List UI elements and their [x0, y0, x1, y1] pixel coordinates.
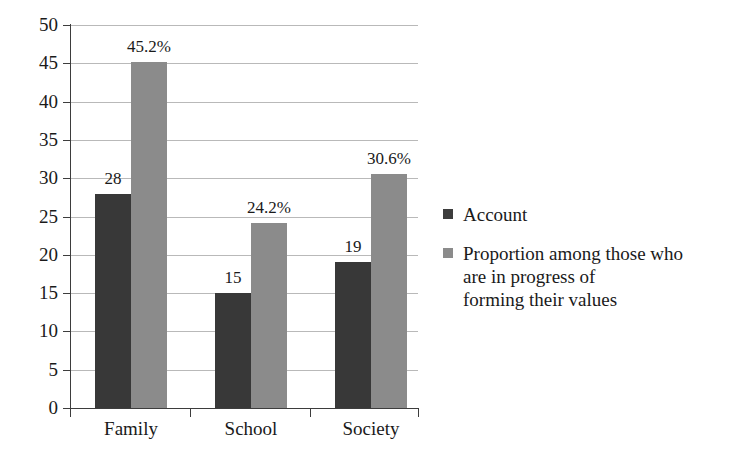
y-axis-tick-label: 30 — [14, 168, 58, 187]
y-axis-tick-label: 50 — [14, 15, 58, 34]
legend-item-account[interactable]: Account — [443, 203, 733, 226]
x-axis-tick — [70, 409, 71, 417]
legend-item-proportion[interactable]: Proportion among those whoare in progres… — [443, 242, 733, 311]
bar — [251, 223, 287, 408]
y-axis-tick — [63, 178, 70, 179]
y-axis-tick-label-wrap: 40 — [0, 92, 58, 111]
legend-label-proportion: Proportion among those whoare in progres… — [463, 242, 683, 311]
y-axis-tick-label: 10 — [14, 321, 58, 340]
y-axis-tick-label: 40 — [14, 92, 58, 111]
x-axis-category-label: Family — [71, 418, 191, 440]
y-axis-tick-label: 20 — [14, 245, 58, 264]
x-axis-line — [70, 408, 419, 409]
bar — [131, 62, 167, 408]
legend-label-account: Account — [463, 203, 527, 226]
bar — [371, 174, 407, 408]
y-axis-tick-label-wrap: 50 — [0, 15, 58, 34]
y-axis-tick — [63, 331, 70, 332]
gridline — [70, 63, 418, 64]
bar — [335, 262, 371, 408]
y-axis-tick — [63, 408, 70, 409]
y-axis-tick-label: 45 — [14, 53, 58, 72]
bar — [95, 194, 131, 408]
y-axis-tick-label: 35 — [14, 130, 58, 149]
y-axis-tick-label-wrap: 30 — [0, 168, 58, 187]
y-axis-tick-label-wrap: 0 — [0, 398, 58, 417]
y-axis-tick-label-wrap: 10 — [0, 321, 58, 340]
y-axis-tick-label: 5 — [14, 360, 58, 379]
y-axis-tick — [63, 25, 70, 26]
x-axis-category-label: Society — [311, 418, 431, 440]
y-axis-tick-label: 15 — [14, 283, 58, 302]
legend-swatch-icon-proportion — [443, 248, 453, 258]
y-axis-tick — [63, 63, 70, 64]
bar-value-label: 30.6% — [354, 150, 424, 167]
gridline — [70, 25, 418, 26]
y-axis-tick — [63, 140, 70, 141]
y-axis-tick-label: 25 — [14, 207, 58, 226]
y-axis-tick-label-wrap: 35 — [0, 130, 58, 149]
y-axis-tick-label-wrap: 15 — [0, 283, 58, 302]
y-axis-tick — [63, 255, 70, 256]
x-axis-category-label: School — [191, 418, 311, 440]
x-axis-tick — [418, 409, 419, 417]
chart-legend: Account Proportion among those whoare in… — [443, 203, 733, 327]
x-axis-tick — [310, 409, 311, 417]
gridline — [70, 140, 418, 141]
y-axis-tick-label-wrap: 45 — [0, 53, 58, 72]
y-axis-tick-label: 0 — [14, 398, 58, 417]
bar-value-label: 24.2% — [234, 199, 304, 216]
y-axis-tick — [63, 217, 70, 218]
y-axis-tick — [63, 370, 70, 371]
x-axis-tick — [190, 409, 191, 417]
y-axis-tick — [63, 102, 70, 103]
y-axis-tick-label-wrap: 5 — [0, 360, 58, 379]
bar-value-label: 45.2% — [114, 38, 184, 55]
y-axis-line — [70, 24, 71, 409]
legend-swatch-icon-account — [443, 209, 453, 219]
y-axis-tick-label-wrap: 20 — [0, 245, 58, 264]
bar — [215, 293, 251, 408]
y-axis-tick-label-wrap: 25 — [0, 207, 58, 226]
gridline — [70, 102, 418, 103]
y-axis-tick — [63, 293, 70, 294]
bar-chart: 05101520253035404550 2845.2%1524.2%1930.… — [0, 0, 741, 469]
